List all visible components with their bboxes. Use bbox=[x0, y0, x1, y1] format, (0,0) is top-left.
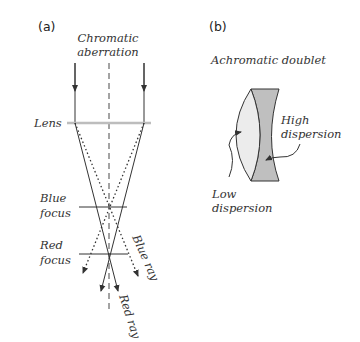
diagram-canvas: (a) Chromatic aberration Lens Blue focus… bbox=[0, 0, 360, 342]
panel-b: (b) Achromatic doublet High dispersion L… bbox=[209, 19, 342, 215]
blue-focus-label-line2: focus bbox=[39, 206, 71, 220]
red-focus-label-line2: focus bbox=[39, 253, 71, 267]
blue-ray-label: Blue ray bbox=[129, 232, 162, 284]
high-dispersion-label-line1: High bbox=[280, 113, 309, 127]
blue-ray-left bbox=[75, 123, 138, 276]
panel-a: (a) Chromatic aberration Lens Blue focus… bbox=[33, 19, 162, 341]
low-dispersion-label-line2: dispersion bbox=[212, 201, 273, 215]
panel-b-label: (b) bbox=[209, 19, 227, 34]
chromatic-title-line1: Chromatic bbox=[77, 31, 139, 45]
high-dispersion-label-line2: dispersion bbox=[281, 127, 342, 141]
chromatic-title-line2: aberration bbox=[77, 45, 139, 59]
lens-label: Lens bbox=[33, 116, 62, 130]
doublet-title: Achromatic doublet bbox=[210, 53, 326, 67]
low-dispersion-label-line1: Low bbox=[211, 187, 237, 201]
red-focus-label-line1: Red bbox=[39, 238, 63, 252]
red-ray-label: Red ray bbox=[116, 292, 144, 341]
panel-a-label: (a) bbox=[38, 19, 55, 34]
blue-focus-label-line1: Blue bbox=[39, 191, 67, 205]
